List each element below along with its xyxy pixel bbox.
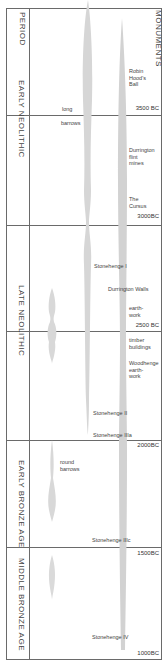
label-stonehenge-2: Stonehenge II <box>93 410 127 417</box>
period-early-bronze-age: EARLY BRONZE AGE <box>17 460 26 548</box>
period-middle-bronze-age: MIDDLE BRONZE AGE <box>17 558 26 651</box>
label-stonehenge-4: Stonehenge IV <box>92 634 128 641</box>
label-earthwork: earth- work <box>129 305 143 318</box>
period-early-neolithic: EARLY NEOLITHIC <box>17 80 26 158</box>
label-durrington-flint-mines: Durrington flint mines <box>129 147 155 167</box>
label-the-cursus: The Cursus <box>129 196 146 209</box>
monuments-band <box>118 18 127 650</box>
label-long: long <box>62 106 72 113</box>
label-barrows: barrows <box>61 120 81 127</box>
label-robin-hoods-ball: Robin Hood's Ball <box>129 68 146 88</box>
date-3000bc: 3000BC <box>137 213 159 219</box>
date-2500bc: 2500 BC <box>136 322 159 328</box>
label-woodhenge-earthwork: Woodhenge earth- work <box>129 360 159 380</box>
date-1000bc: 1000BC <box>137 650 159 656</box>
period-late-neolithic: LATE NEOLITHIC <box>17 285 26 356</box>
date-3500bc: 3500 BC <box>136 105 159 111</box>
date-2000bc: 2000BC <box>137 442 159 448</box>
monuments-header: MONUMENTS <box>154 10 163 67</box>
round-barrows-band-3 <box>49 555 55 600</box>
round-barrows-band-2 <box>48 440 56 522</box>
label-round-barrows: round barrows <box>60 459 80 472</box>
label-timber-buildings: timber buildings <box>129 337 151 350</box>
long-barrows-band <box>83 0 93 435</box>
date-1500bc: 1500BC <box>137 550 159 556</box>
label-stonehenge-3a: Stonehenge IIIa <box>93 432 132 439</box>
label-durrington-walls: Durrington Walls <box>108 286 148 293</box>
label-stonehenge-3c: Stonehenge IIIc <box>92 537 131 544</box>
label-stonehenge-1: Stonehenge I <box>94 263 127 270</box>
period-header: PERIOD <box>18 12 27 46</box>
